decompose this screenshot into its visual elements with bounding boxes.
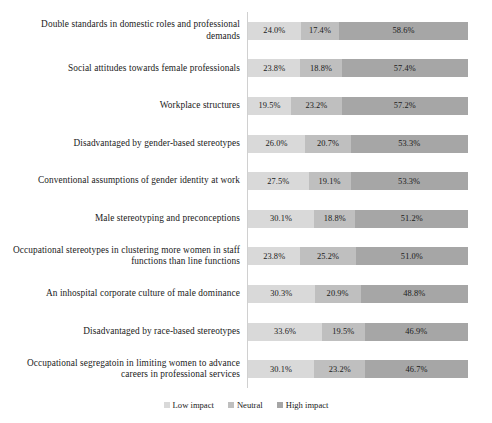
bar-segment-low-impact: 23.8% <box>248 247 300 265</box>
stacked-bar: 19.5%23.2%57.2% <box>248 97 468 115</box>
bar-segment-high-impact: 58.6% <box>339 22 468 40</box>
bar-segment-neutral: 18.8% <box>300 59 341 77</box>
category-label: Disadvantaged by race-based stereotypes <box>8 326 240 337</box>
bar-segment-high-impact: 53.3% <box>351 135 468 153</box>
square-swatch-icon <box>164 402 170 408</box>
legend-item[interactable]: Low impact <box>164 400 214 410</box>
bar-row: Occupational stereotypes in clustering m… <box>0 238 492 276</box>
bar-segment-high-impact: 53.3% <box>351 172 468 190</box>
category-label: Social attitudes towards female professi… <box>8 63 240 74</box>
square-swatch-icon <box>277 402 283 408</box>
category-label: Conventional assumptions of gender ident… <box>8 175 240 186</box>
bar-row: Occupational segregatoin in limiting wom… <box>0 350 492 388</box>
bar-segment-high-impact: 51.0% <box>356 247 468 265</box>
bar-segment-neutral: 20.7% <box>305 135 351 153</box>
bar-segment-low-impact: 33.6% <box>248 323 322 341</box>
bar-segment-high-impact: 46.9% <box>365 323 468 341</box>
bar-segment-low-impact: 23.8% <box>248 59 300 77</box>
plot-area: Double standards in domestic roles and p… <box>0 12 492 388</box>
bar-segment-neutral: 23.2% <box>314 360 365 378</box>
bar-row: Social attitudes towards female professi… <box>0 50 492 88</box>
bar-segment-neutral: 18.8% <box>314 210 355 228</box>
category-label: Disadvantaged by gender-based stereotype… <box>8 138 240 149</box>
bar-segment-neutral: 23.2% <box>291 97 342 115</box>
stacked-bar: 30.1%18.8%51.2% <box>248 210 468 228</box>
bar-segment-high-impact: 57.2% <box>342 97 468 115</box>
bar-row: An inhospital corporate culture of male … <box>0 275 492 313</box>
bar-row: Double standards in domestic roles and p… <box>0 12 492 50</box>
bar-segment-neutral: 19.5% <box>322 323 365 341</box>
stacked-bar: 23.8%18.8%57.4% <box>248 59 468 77</box>
bar-segment-low-impact: 30.1% <box>248 210 314 228</box>
bar-row: Male stereotyping and preconceptions30.1… <box>0 200 492 238</box>
stacked-bar: 24.0%17.4%58.6% <box>248 22 468 40</box>
bar-segment-high-impact: 51.2% <box>355 210 468 228</box>
bar-segment-neutral: 17.4% <box>301 22 339 40</box>
stacked-bar: 30.1%23.2%46.7% <box>248 360 468 378</box>
bar-segment-neutral: 25.2% <box>300 247 355 265</box>
bar-segment-high-impact: 48.8% <box>361 285 468 303</box>
stacked-bar: 30.3%20.9%48.8% <box>248 285 468 303</box>
stacked-bar: 33.6%19.5%46.9% <box>248 323 468 341</box>
bar-segment-low-impact: 30.3% <box>248 285 315 303</box>
stacked-bar-chart: Double standards in domestic roles and p… <box>0 0 492 423</box>
legend-label: High impact <box>286 400 329 410</box>
square-swatch-icon <box>228 402 234 408</box>
bar-segment-high-impact: 46.7% <box>365 360 468 378</box>
bar-row: Workplace structures19.5%23.2%57.2% <box>0 87 492 125</box>
bar-segment-low-impact: 24.0% <box>248 22 301 40</box>
category-label: Occupational segregatoin in limiting wom… <box>8 358 240 381</box>
legend-label: Low impact <box>173 400 214 410</box>
bar-segment-low-impact: 27.5% <box>248 172 309 190</box>
legend-label: Neutral <box>237 400 263 410</box>
legend-item[interactable]: High impact <box>277 400 329 410</box>
category-label: Workplace structures <box>8 100 240 111</box>
category-label: Male stereotyping and preconceptions <box>8 213 240 224</box>
category-label: Occupational stereotypes in clustering m… <box>8 245 240 268</box>
bar-segment-low-impact: 26.0% <box>248 135 305 153</box>
stacked-bar: 23.8%25.2%51.0% <box>248 247 468 265</box>
bar-segment-low-impact: 30.1% <box>248 360 314 378</box>
category-label: An inhospital corporate culture of male … <box>8 288 240 299</box>
bar-row: Disadvantaged by gender-based stereotype… <box>0 125 492 163</box>
legend-item[interactable]: Neutral <box>228 400 263 410</box>
bar-row: Conventional assumptions of gender ident… <box>0 162 492 200</box>
bar-segment-high-impact: 57.4% <box>342 59 468 77</box>
bar-segment-low-impact: 19.5% <box>248 97 291 115</box>
category-label: Double standards in domestic roles and p… <box>8 19 240 42</box>
stacked-bar: 26.0%20.7%53.3% <box>248 135 468 153</box>
chart-legend: Low impactNeutralHigh impact <box>0 400 492 410</box>
bar-segment-neutral: 20.9% <box>315 285 361 303</box>
stacked-bar: 27.5%19.1%53.3% <box>248 172 468 190</box>
bar-row: Disadvantaged by race-based stereotypes3… <box>0 313 492 351</box>
bar-segment-neutral: 19.1% <box>309 172 351 190</box>
